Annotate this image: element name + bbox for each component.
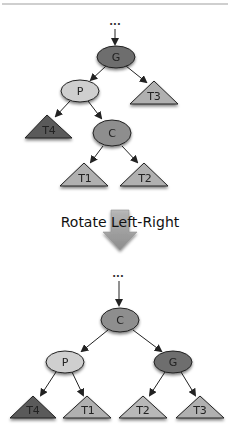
node-C: C bbox=[93, 120, 131, 146]
subtree-T4: T4 bbox=[25, 115, 72, 138]
edge-C-T1 bbox=[91, 146, 103, 162]
subtree-T3: T3 bbox=[130, 81, 178, 104]
node-C: C bbox=[101, 308, 139, 332]
edge-G-T2 bbox=[150, 372, 165, 395]
subtree-T4: T4 bbox=[10, 396, 56, 418]
ellipsis-bottom: ... bbox=[112, 268, 123, 279]
node-C-label: C bbox=[108, 127, 116, 140]
subtree-T2-label: T2 bbox=[135, 404, 150, 417]
subtree-T4-label: T4 bbox=[25, 404, 40, 417]
edge-C-P bbox=[82, 330, 108, 351]
node-G-label: G bbox=[169, 356, 178, 369]
edge-C-G bbox=[133, 330, 161, 351]
node-P: P bbox=[46, 351, 84, 373]
after-tree: ... C P G T4 T1 bbox=[10, 268, 224, 418]
node-G: G bbox=[154, 351, 192, 373]
subtree-T1: T1 bbox=[63, 396, 111, 418]
before-tree: ... G P C T3 T4 bbox=[25, 16, 178, 186]
caption: Rotate Left-Right bbox=[61, 214, 180, 230]
node-C-label: C bbox=[116, 314, 124, 327]
subtree-T1: T1 bbox=[60, 163, 108, 186]
edge-C-T2 bbox=[122, 146, 137, 162]
subtree-T3-label: T3 bbox=[192, 404, 207, 417]
edge-G-P bbox=[91, 66, 106, 80]
node-P: P bbox=[61, 80, 99, 102]
subtree-T2: T2 bbox=[119, 396, 167, 418]
subtree-T2-label: T2 bbox=[137, 172, 152, 185]
edge-P-C bbox=[88, 101, 101, 118]
subtree-T4-label: T4 bbox=[41, 124, 56, 137]
node-P-label: P bbox=[62, 356, 69, 369]
node-G-label: G bbox=[112, 51, 121, 64]
edge-P-T4 bbox=[56, 101, 70, 116]
edge-G-T3 bbox=[126, 66, 146, 82]
node-G: G bbox=[97, 46, 135, 68]
edge-P-T4 bbox=[41, 372, 56, 395]
subtree-T2: T2 bbox=[120, 163, 168, 186]
subtree-T1-label: T1 bbox=[80, 404, 95, 417]
ellipsis-top: ... bbox=[109, 16, 120, 27]
edge-P-T1 bbox=[72, 372, 83, 395]
rotation-diagram: ... G P C T3 T4 bbox=[0, 0, 238, 442]
edge-G-T3 bbox=[181, 372, 195, 395]
subtree-T3-label: T3 bbox=[146, 90, 161, 103]
node-P-label: P bbox=[77, 85, 84, 98]
subtree-T1-label: T1 bbox=[77, 172, 92, 185]
subtree-T3: T3 bbox=[176, 396, 224, 418]
